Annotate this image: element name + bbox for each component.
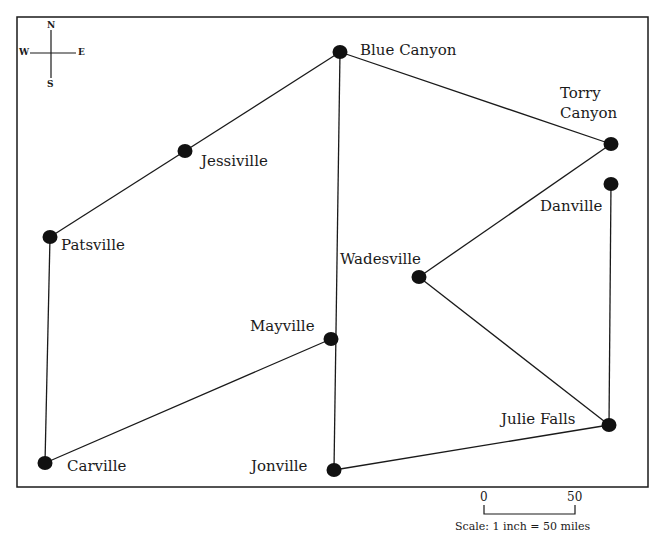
compass-west-label: W xyxy=(19,47,29,57)
city-marker-jessiville xyxy=(178,144,193,158)
city-marker-carville xyxy=(38,456,53,470)
city-marker-mayville xyxy=(324,332,339,346)
compass-south-label: S xyxy=(47,79,54,89)
city-label-torry-canyon-line1: Torry xyxy=(560,84,601,102)
city-label-jessiville: Jessiville xyxy=(201,152,268,170)
city-label-julie-falls: Julie Falls xyxy=(501,410,576,428)
city-marker-jonville xyxy=(327,463,342,477)
city-label-carville: Carville xyxy=(67,457,126,475)
compass-east-label: E xyxy=(78,47,85,57)
city-marker-danville xyxy=(604,177,619,191)
city-label-blue-canyon: Blue Canyon xyxy=(360,41,456,59)
road-patsville-carville xyxy=(45,237,50,463)
compass-north-label: N xyxy=(47,20,55,30)
road-danville-julie-falls xyxy=(609,184,611,425)
city-label-torry-canyon-line2: Canyon xyxy=(560,104,617,122)
scale-bar xyxy=(484,505,575,514)
road-jonville-julie-falls xyxy=(334,425,609,470)
scale-caption: Scale: 1 inch = 50 miles xyxy=(455,520,590,533)
road-network xyxy=(45,52,611,470)
city-label-danville: Danville xyxy=(540,197,602,215)
road-carville-mayville xyxy=(45,339,331,463)
compass-rose-icon xyxy=(30,30,76,78)
scale-end-label: 50 xyxy=(567,490,582,504)
scale-start-label: 0 xyxy=(480,490,488,504)
city-marker-blue-canyon xyxy=(333,45,348,59)
city-label-jonville: Jonville xyxy=(251,457,307,475)
city-label-mayville: Mayville xyxy=(250,317,315,335)
road-wadesville-julie-falls xyxy=(419,277,609,425)
road-blue-canyon-jessiville xyxy=(185,52,340,151)
city-label-wadesville: Wadesville xyxy=(340,250,421,268)
city-marker-patsville xyxy=(43,230,58,244)
road-jessiville-patsville xyxy=(50,151,185,237)
city-marker-julie-falls xyxy=(602,418,617,432)
city-marker-wadesville xyxy=(412,270,427,284)
city-label-patsville: Patsville xyxy=(61,236,125,254)
city-marker-torry-canyon xyxy=(604,137,619,151)
